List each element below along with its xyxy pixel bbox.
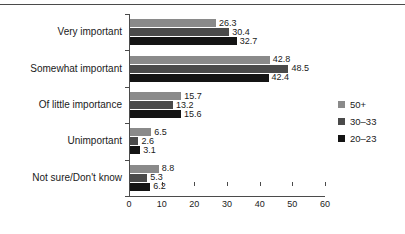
legend-swatch-icon-2 bbox=[338, 135, 345, 142]
bar-value-0-2: 32.7 bbox=[237, 37, 258, 46]
category-label-1: Somewhat important bbox=[0, 63, 122, 74]
category-label-3: Unimportant bbox=[0, 135, 122, 146]
bar-0-1 bbox=[130, 28, 229, 36]
x-tick-label-10: 10 bbox=[147, 199, 177, 210]
x-tick-label-0: 0 bbox=[114, 199, 144, 210]
y-tick-1 bbox=[125, 50, 129, 51]
y-tick-2 bbox=[125, 87, 129, 88]
bar-2-0 bbox=[130, 92, 181, 100]
x-tick-label-60: 60 bbox=[310, 199, 340, 210]
category-label-2: Of little importance bbox=[0, 99, 122, 110]
bar-2-1 bbox=[130, 101, 173, 109]
y-tick-3 bbox=[125, 123, 129, 124]
bar-0-0 bbox=[130, 19, 216, 27]
chart-legend: 50+30–3320–23 bbox=[338, 96, 376, 147]
legend-label-0: 50+ bbox=[350, 100, 366, 110]
y-tick-0 bbox=[125, 14, 129, 15]
y-tick-4 bbox=[125, 160, 129, 161]
legend-swatch-icon-1 bbox=[338, 118, 345, 125]
bar-1-1 bbox=[130, 65, 288, 73]
bar-value-4-2: 6.2 bbox=[150, 182, 166, 191]
y-tick-5 bbox=[125, 196, 129, 197]
x-tick-label-20: 20 bbox=[179, 199, 209, 210]
bar-value-1-0: 42.8 bbox=[270, 55, 291, 64]
legend-item-1[interactable]: 30–33 bbox=[338, 113, 376, 130]
bar-3-1 bbox=[130, 137, 138, 145]
bar-1-2 bbox=[130, 74, 269, 82]
legend-label-1: 30–33 bbox=[350, 117, 376, 127]
bar-value-3-2: 3.1 bbox=[140, 146, 156, 155]
bar-1-0 bbox=[130, 56, 270, 64]
x-tick-40 bbox=[260, 182, 261, 186]
category-label-0: Very important bbox=[0, 26, 122, 37]
legend-swatch-icon-0 bbox=[338, 101, 345, 108]
top-divider-rule bbox=[0, 4, 405, 5]
legend-item-2[interactable]: 20–23 bbox=[338, 130, 376, 147]
bar-0-2 bbox=[130, 37, 237, 45]
bar-4-2 bbox=[130, 183, 150, 191]
bar-2-2 bbox=[130, 110, 181, 118]
x-tick-30 bbox=[227, 182, 228, 186]
x-tick-label-30: 30 bbox=[212, 199, 242, 210]
bar-value-1-2: 42.4 bbox=[269, 73, 290, 82]
bar-value-1-1: 48.5 bbox=[288, 64, 309, 73]
x-axis-line bbox=[129, 196, 325, 197]
legend-label-2: 20–23 bbox=[350, 134, 376, 144]
bar-3-2 bbox=[130, 146, 140, 154]
x-tick-label-50: 50 bbox=[277, 199, 307, 210]
x-tick-label-40: 40 bbox=[245, 199, 275, 210]
bar-4-1 bbox=[130, 174, 147, 182]
bar-value-2-2: 15.6 bbox=[181, 110, 202, 119]
legend-item-0[interactable]: 50+ bbox=[338, 96, 376, 113]
x-tick-20 bbox=[194, 182, 195, 186]
category-label-4: Not sure/Don't know bbox=[0, 172, 122, 183]
x-tick-60 bbox=[325, 182, 326, 186]
x-tick-50 bbox=[292, 182, 293, 186]
